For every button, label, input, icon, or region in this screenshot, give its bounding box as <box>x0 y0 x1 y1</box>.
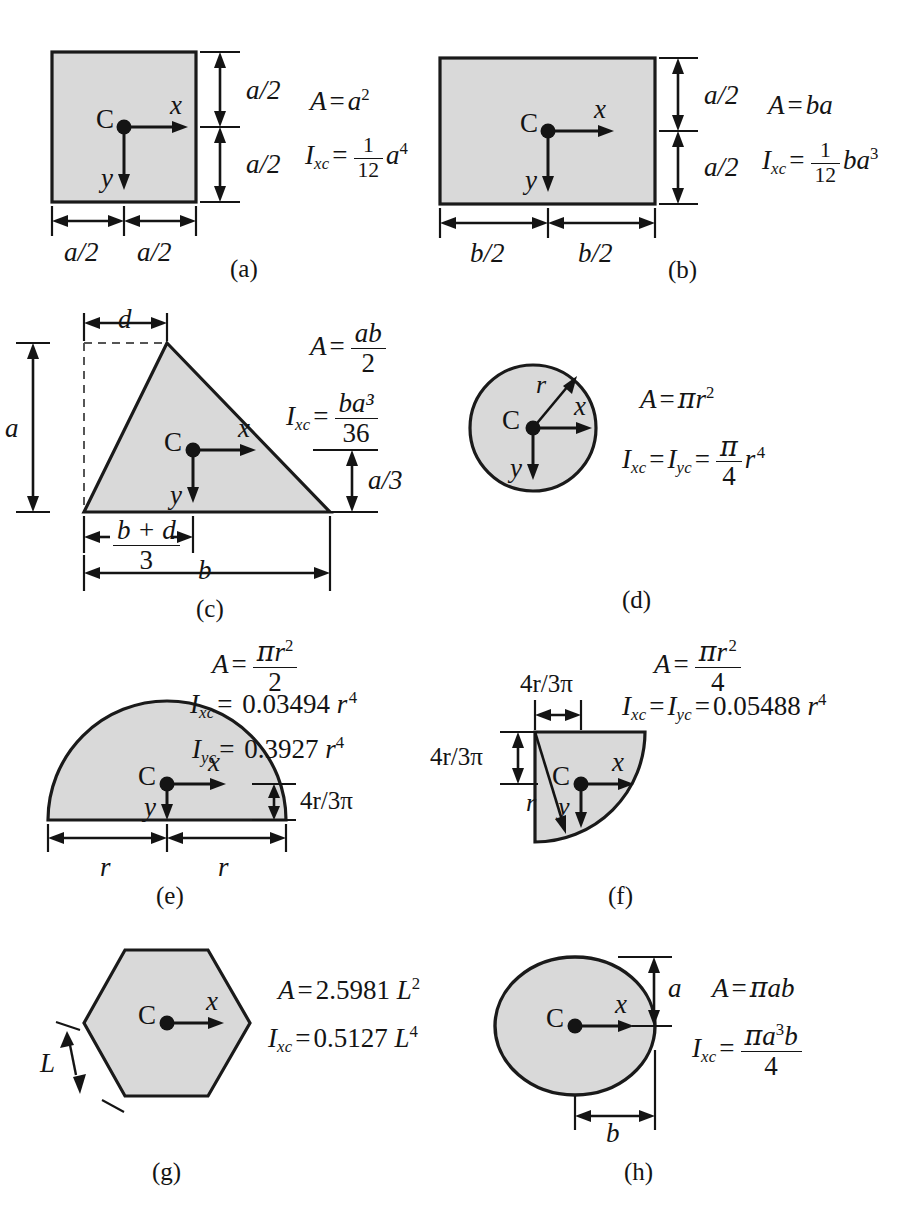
axis-y-label-e: y <box>144 792 156 823</box>
dim-c-b: b <box>198 555 212 586</box>
area-lhs-d: A <box>640 384 657 414</box>
inertia-y-lhs-e: I <box>192 734 201 764</box>
inertia-x-tail-e: r 4 <box>337 689 357 719</box>
area-fraction-f: πr 24 <box>695 638 741 696</box>
area-lhs-b: A <box>768 90 785 120</box>
inertia-y-tail-e: r4 <box>325 734 344 764</box>
area-rhs-b: ba <box>806 90 833 120</box>
inertia-value-g: 0.5127 <box>314 1023 388 1053</box>
dim-e-radius-right: r <box>218 852 229 883</box>
dim-e-radius-left: r <box>100 852 111 883</box>
panel-c: C x y d a a/3 b + d3 b A=ab2 Ixc=ba³36 (… <box>0 295 460 630</box>
dim-a-top: a/2 <box>246 75 281 106</box>
dim-a-left: a/2 <box>64 237 99 268</box>
axis-x-label-b: x <box>594 94 606 125</box>
axis-y-label-a: y <box>101 163 113 194</box>
area-value-g: 2.5981 <box>316 975 390 1005</box>
axis-x-label-f: x <box>612 747 624 778</box>
centroid-dot <box>568 1019 583 1034</box>
inertia-value-f: 0.05488 <box>713 691 801 721</box>
centroid-label-e: C <box>138 761 156 792</box>
area-rhs-a: a2 <box>348 86 370 116</box>
formula-area-g: A=2.5981 L2 <box>278 976 420 1004</box>
axis-x-label-c: x <box>238 413 250 444</box>
panel-b: C x y a/2 a/2 b/2 b/2 A=ba Ixc=112ba3 (b… <box>430 0 922 290</box>
inertia-x-sub-e: xc <box>199 703 214 722</box>
area-lhs-g: A <box>278 975 295 1005</box>
inertia-tail-d: r 4 <box>745 444 765 474</box>
inertia-tail-a: a4 <box>386 140 408 170</box>
formula-inertia-c: Ixc=ba³36 <box>286 390 381 447</box>
dim-c-a3: a/3 <box>368 465 403 496</box>
inertia-sub-1-d: xc <box>631 458 646 477</box>
caption-d: (d) <box>622 586 651 614</box>
caption-a: (a) <box>230 255 258 283</box>
panel-e: C x y 4r/3π r r A=πr22 Ixc= 0.03494 r 4 … <box>0 630 460 930</box>
axis-x-label-a: x <box>170 90 182 121</box>
inertia-fraction-a: 112 <box>354 135 384 181</box>
area-lhs-a: A <box>310 86 327 116</box>
inertia-sub-a: xc <box>314 154 329 173</box>
caption-c: (c) <box>196 595 224 623</box>
formula-area-c: A=ab2 <box>310 320 389 377</box>
centroid-label-d: C <box>502 405 520 436</box>
dim-b-right: b/2 <box>578 238 613 269</box>
radius-label-d: r <box>536 370 546 400</box>
axis-y-label-f: y <box>558 792 570 822</box>
formula-inertia-g: Ixc=0.5127 L4 <box>268 1024 418 1056</box>
panel-f: C x y r 4r/3π 4r/3π A=πr 24 Ixc=Iyc=0.05… <box>440 630 922 930</box>
caption-g: (g) <box>152 1158 181 1186</box>
inertia-lhs-1-f: I <box>622 691 631 721</box>
panel-d: C x y r A=πr2 Ixc=Iyc=π4r 4 (d) <box>440 340 922 630</box>
inertia-lhs-b: I <box>762 145 771 175</box>
inertia-fraction-d: π4 <box>716 433 742 490</box>
centroid-label-f: C <box>552 761 570 792</box>
inertia-sub-2-d: yc <box>677 458 692 477</box>
axis-x-label-g: x <box>206 986 218 1017</box>
inertia-fraction-h: πa3b4 <box>741 1022 802 1080</box>
formula-area-e: A=πr22 <box>212 638 300 696</box>
dim-h-a: a <box>668 973 682 1004</box>
caption-e: (e) <box>156 882 184 910</box>
inertia-x-value-e: 0.03494 <box>242 689 330 719</box>
area-lhs-h: A <box>712 973 729 1003</box>
inertia-sub-c: xc <box>295 415 310 434</box>
formula-inertia-f: Ixc=Iyc=0.05488 r4 <box>622 692 826 724</box>
dim-c-centroid-offset: b + d3 <box>110 517 183 574</box>
dim-f-offset-y: 4r/3π <box>430 743 483 771</box>
inertia-y-value-e: 0.3927 <box>244 734 318 764</box>
inertia-fraction-b: 112 <box>811 140 841 186</box>
panel-g: C x L A=2.5981 L2 Ixc=0.5127 L4 (g) <box>0 930 460 1213</box>
inertia-lhs-h: I <box>692 1033 701 1063</box>
centroid-label-c: C <box>164 427 182 458</box>
dim-a-right: a/2 <box>137 237 172 268</box>
inertia-tail-g: L4 <box>395 1023 418 1053</box>
inertia-sub-1-f: xc <box>631 705 646 724</box>
centroid-dot <box>186 443 201 458</box>
dim-c-d: d <box>118 304 132 335</box>
inertia-sub-b: xc <box>771 159 786 178</box>
area-lhs-e: A <box>212 649 229 679</box>
axis-x-label-h: x <box>615 989 627 1020</box>
area-rhs-d: πr2 <box>678 384 715 414</box>
panel-a: C x y a/2 a/2 a/2 a/2 A=a2 Ixc=112a4 (a) <box>0 0 460 290</box>
area-lhs-f: A <box>654 649 671 679</box>
axis-y-label-b: y <box>525 165 537 196</box>
centroid-dot <box>160 777 175 792</box>
caption-f: (f) <box>608 882 633 910</box>
formula-inertia-x-e: Ixc= 0.03494 r 4 <box>190 690 357 722</box>
centroid-label-h: C <box>546 1003 564 1034</box>
dim-h-b: b <box>606 1118 620 1149</box>
area-lhs-c: A <box>310 331 327 361</box>
inertia-tail-f: r4 <box>808 691 827 721</box>
radius-label-f: r <box>526 788 536 818</box>
centroid-dot <box>574 777 589 792</box>
inertia-tail-b: ba3 <box>843 145 878 175</box>
inertia-sub-2-f: yc <box>677 705 692 724</box>
centroid-dot <box>526 421 541 436</box>
inertia-sub-h: xc <box>701 1047 716 1066</box>
centroid-offset-fraction-c: b + d3 <box>113 517 180 574</box>
side-label-g: L <box>40 1048 55 1079</box>
formula-area-f: A=πr 24 <box>654 638 744 696</box>
formula-inertia-d: Ixc=Iyc=π4r 4 <box>622 433 765 490</box>
